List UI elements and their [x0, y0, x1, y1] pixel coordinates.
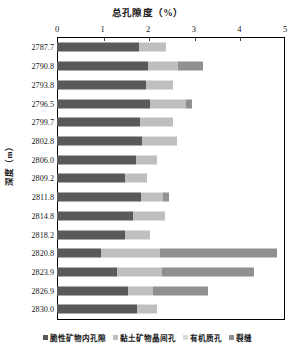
stacked-bar — [57, 286, 208, 295]
legend-label: 有机质孔 — [190, 332, 222, 343]
y-tick-label-4: 2799.7 — [31, 118, 54, 127]
legend-label: 裂缝 — [236, 332, 252, 343]
bar-segment-0 — [57, 118, 140, 127]
y-tick-label-3: 2796.5 — [31, 99, 54, 108]
legend-swatch-icon — [113, 335, 118, 340]
bar-segment-1 — [125, 174, 147, 183]
bar-row: 2793.8 — [57, 75, 285, 94]
x-tick-label-5: 5 — [283, 24, 287, 34]
bar-segment-0 — [57, 286, 128, 295]
bar-segment-3 — [162, 267, 253, 276]
bar-segment-0 — [57, 249, 101, 258]
x-tick-label-4: 4 — [237, 24, 241, 34]
bar-row: 2826.9 — [57, 281, 285, 300]
bar-segment-1 — [117, 267, 162, 276]
bar-segment-0 — [57, 305, 137, 314]
bar-segment-1 — [146, 80, 173, 89]
chart-root: 总孔隙度（%） 深度（m） 012345 2787.72790.82793.82… — [0, 0, 295, 354]
bar-segment-1 — [128, 286, 153, 295]
stacked-bar — [57, 305, 157, 314]
legend-item-0[interactable]: 脆性矿物内孔隙 — [43, 332, 106, 343]
bar-row: 2799.7 — [57, 113, 285, 132]
legend-swatch-icon — [43, 335, 48, 340]
legend-item-1[interactable]: 黏土矿物晶间孔 — [113, 332, 176, 343]
bar-row: 2806.0 — [57, 150, 285, 169]
stacked-bar — [57, 99, 192, 108]
x-tick-label-1: 1 — [100, 24, 104, 34]
bar-segment-1 — [101, 249, 160, 258]
bar-segment-0 — [57, 211, 133, 220]
bar-row: 2802.8 — [57, 132, 285, 151]
stacked-bar — [57, 118, 173, 127]
bar-row: 2830.0 — [57, 300, 285, 319]
bar-row: 2811.8 — [57, 188, 285, 207]
bar-row: 2787.7 — [57, 38, 285, 57]
legend-swatch-icon — [229, 335, 234, 340]
x-tick-label-3: 3 — [192, 24, 196, 34]
bar-segment-0 — [57, 80, 146, 89]
y-tick-label-8: 2811.8 — [32, 193, 54, 202]
bar-row: 2814.8 — [57, 206, 285, 225]
stacked-bar — [57, 249, 277, 258]
x-tick-label-0: 0 — [55, 24, 59, 34]
bar-segment-1 — [137, 305, 157, 314]
stacked-bar — [57, 211, 165, 220]
bar-row: 2823.9 — [57, 263, 285, 282]
bar-row: 2790.8 — [57, 57, 285, 76]
stacked-bar — [57, 62, 203, 71]
bar-segment-3 — [153, 286, 208, 295]
stacked-bar — [57, 193, 169, 202]
bar-segment-1 — [148, 62, 178, 71]
y-tick-label-14: 2830.0 — [31, 305, 54, 314]
x-tick-label-2: 2 — [146, 24, 150, 34]
y-tick-label-6: 2806.0 — [31, 155, 54, 164]
legend-swatch-icon — [183, 335, 188, 340]
legend-label: 脆性矿物内孔隙 — [50, 332, 106, 343]
bar-segment-1 — [136, 155, 157, 164]
bar-segment-0 — [57, 267, 117, 276]
legend-item-2[interactable]: 有机质孔 — [183, 332, 222, 343]
stacked-bar — [57, 267, 254, 276]
bar-segment-1 — [133, 211, 165, 220]
bar-segment-3 — [178, 62, 203, 71]
y-tick-label-13: 2826.9 — [31, 286, 54, 295]
bar-segment-1 — [139, 43, 166, 52]
legend-item-3[interactable]: 裂缝 — [229, 332, 252, 343]
y-tick-label-5: 2802.8 — [31, 136, 54, 145]
bar-segment-0 — [57, 43, 139, 52]
y-tick-label-11: 2820.8 — [31, 249, 54, 258]
y-tick-label-12: 2823.9 — [31, 267, 54, 276]
bar-row: 2796.5 — [57, 94, 285, 113]
y-tick-label-0: 2787.7 — [31, 43, 54, 52]
stacked-bar — [57, 174, 147, 183]
bar-segment-0 — [57, 62, 148, 71]
bar-segment-1 — [125, 230, 150, 239]
bar-segment-0 — [57, 155, 136, 164]
bar-rows: 2787.72790.82793.82796.52799.72802.82806… — [57, 38, 285, 319]
bar-segment-0 — [57, 174, 125, 183]
bar-row: 2809.2 — [57, 169, 285, 188]
chart-title: 总孔隙度（%） — [0, 5, 295, 19]
stacked-bar — [57, 43, 166, 52]
x-axis-tick-labels: 012345 — [0, 24, 295, 36]
y-tick-label-2: 2793.8 — [31, 80, 54, 89]
bar-segment-3 — [186, 99, 193, 108]
stacked-bar — [57, 80, 173, 89]
legend-label: 黏土矿物晶间孔 — [120, 332, 176, 343]
y-tick-label-10: 2818.2 — [31, 230, 54, 239]
bar-segment-3 — [160, 249, 276, 258]
bar-segment-1 — [140, 118, 173, 127]
bar-segment-0 — [57, 99, 150, 108]
stacked-bar — [57, 136, 177, 145]
stacked-bar — [57, 155, 157, 164]
stacked-bar — [57, 230, 150, 239]
bar-segment-1 — [150, 99, 185, 108]
bar-row: 2820.8 — [57, 244, 285, 263]
chart-legend: 脆性矿物内孔隙黏土矿物晶间孔有机质孔裂缝 — [0, 332, 295, 343]
y-axis-label: 深度（m） — [2, 134, 14, 194]
y-tick-label-9: 2814.8 — [31, 211, 54, 220]
y-tick-label-7: 2809.2 — [31, 174, 54, 183]
bar-segment-0 — [57, 136, 142, 145]
bar-segment-0 — [57, 193, 141, 202]
bar-segment-1 — [142, 136, 177, 145]
